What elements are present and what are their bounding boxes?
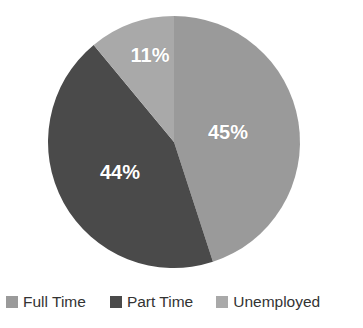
- legend-item-part-time[interactable]: Part Time: [110, 288, 193, 316]
- legend-label-full-time: Full Time: [23, 294, 86, 310]
- pie-slice-group: [48, 16, 300, 268]
- slice-label-part-time: 44%: [100, 162, 140, 182]
- chart-legend: Full Time Part Time Unemployed: [0, 288, 363, 316]
- legend-item-full-time[interactable]: Full Time: [6, 288, 86, 316]
- slice-label-unemployed: 11%: [131, 45, 170, 65]
- pie-svg: [0, 0, 363, 282]
- legend-label-part-time: Part Time: [127, 294, 193, 310]
- slice-label-full-time: 45%: [208, 122, 248, 142]
- pie-chart-figure: 45% 44% 11% Full Time Part Time Unemploy…: [0, 0, 363, 328]
- pie-plot-area: 45% 44% 11%: [0, 0, 363, 282]
- legend-swatch-icon-part-time: [110, 296, 122, 308]
- legend-label-unemployed: Unemployed: [233, 294, 320, 310]
- legend-swatch-icon-full-time: [6, 296, 18, 308]
- legend-swatch-icon-unemployed: [216, 296, 228, 308]
- legend-item-unemployed[interactable]: Unemployed: [216, 288, 320, 316]
